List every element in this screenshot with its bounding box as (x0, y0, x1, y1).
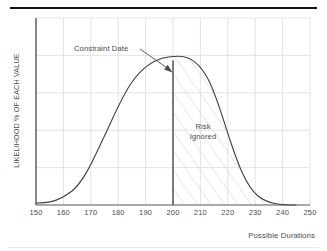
x-tick-label: 220 (216, 208, 240, 217)
x-tick-label: 150 (24, 208, 48, 217)
constraint-date-annotation: Constraint Date (74, 44, 128, 53)
x-tick-label: 250 (298, 208, 322, 217)
risk-ignored-line1: Risk (195, 122, 210, 131)
x-tick-label: 200 (161, 208, 185, 217)
x-tick-label: 180 (106, 208, 130, 217)
bottom-divider-rule (8, 247, 319, 248)
risk-distribution-figure: 150 160 170 180 190 200 210 220 230 240 … (0, 0, 327, 251)
x-tick-label: 190 (134, 208, 158, 217)
risk-ignored-annotation: Risk Ignored (183, 122, 223, 142)
y-axis-title: Likelihood % of Each Value (12, 51, 21, 171)
x-tick-label: 230 (243, 208, 267, 217)
x-tick-label: 210 (188, 208, 212, 217)
x-axis-title: Possible Durations (248, 231, 315, 240)
x-tick-label: 240 (271, 208, 295, 217)
risk-ignored-line2: Ignored (190, 132, 216, 141)
x-tick-label: 170 (79, 208, 103, 217)
x-tick-label: 160 (51, 208, 75, 217)
